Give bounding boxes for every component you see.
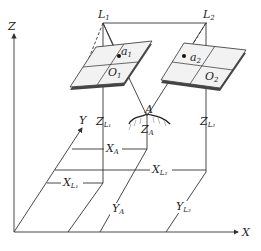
photo-plate-2: [161, 43, 246, 91]
z-axis-label: Z: [7, 20, 16, 33]
stereo-photogrammetry-diagram: Z X Y L1 L2 a1 a2 O1 O2 A ZL₁ ZA ZL₂ XA …: [0, 0, 261, 251]
x-axis-label: X: [241, 226, 251, 239]
center-L1-label: L1: [97, 8, 110, 22]
ZA-label: ZA: [140, 123, 154, 137]
center-L2-label: L2: [202, 8, 215, 22]
ZL1-label: ZL₁: [95, 115, 111, 129]
y-axis-label: Y: [79, 114, 88, 127]
ground-point-A-label: A: [144, 103, 153, 116]
ZL2-label: ZL₂: [199, 115, 215, 129]
